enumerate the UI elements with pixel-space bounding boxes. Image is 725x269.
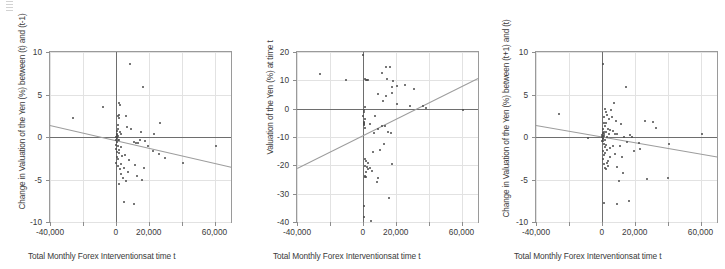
data-point [625,86,627,88]
x-tick-mark [569,222,570,226]
panel-2-plot-area: -40-30-20-1001020-40,000020,00060,000 [297,52,478,222]
x-tick-label: 60,000 [436,228,488,237]
data-point [587,137,589,139]
data-point [623,136,625,138]
y-tick-label: 10 [8,48,42,56]
scatter-panel-1: Change in Valuation of the Yen (%) betwe… [0,0,241,269]
y-tick-label: 5 [8,91,42,99]
y-tick-mark [293,109,297,110]
x-tick-mark [149,222,150,226]
x-tick-mark [429,222,430,226]
data-point [363,216,365,218]
data-point [385,66,387,68]
y-tick-label: -20 [255,161,289,169]
x-tick-mark [50,222,51,226]
gridline-horizontal [50,52,231,53]
data-point [381,125,383,127]
x-tick-mark [83,222,84,226]
y-tick-mark [532,52,536,53]
gridline-horizontal [297,194,478,195]
data-point [372,151,374,153]
x-tick-mark [330,222,331,226]
data-point [391,86,393,88]
data-point [409,105,411,107]
y-tick-label: 0 [8,133,42,141]
y-tick-mark [46,95,50,96]
x-tick-mark [602,222,603,226]
data-point [374,115,376,117]
data-point [125,115,127,117]
data-point [118,152,120,154]
data-point [120,146,122,148]
data-point [604,125,606,127]
x-tick-mark [116,222,117,226]
y-tick-label: -10 [494,218,528,226]
data-point [118,183,120,185]
data-point [117,158,119,160]
y-tick-mark [293,194,297,195]
data-point [122,177,124,179]
y-tick-mark [532,95,536,96]
y-tick-label: -5 [8,176,42,184]
gridline-horizontal [297,222,478,223]
data-point [612,145,614,147]
y-tick-label: 10 [494,48,528,56]
x-tick-label: -40,000 [24,228,76,237]
gridline-horizontal [50,222,231,223]
y-tick-label: 0 [255,105,289,113]
x-tick-mark [635,222,636,226]
data-point [425,107,427,109]
y-tick-label: 10 [255,76,289,84]
y-tick-label: -10 [255,133,289,141]
data-point [602,158,604,160]
data-point [603,163,605,165]
x-tick-label: -40,000 [271,228,323,237]
gridline-horizontal [536,52,717,53]
data-point [611,116,613,118]
data-point [120,163,122,165]
data-point [606,162,608,164]
x-tick-mark [182,222,183,226]
data-point [387,131,389,133]
x-tick-label: 20,000 [609,228,661,237]
panel-1-plot-area: -10-50510-40,000020,00060,000 [50,52,231,222]
y-tick-mark [293,165,297,166]
x-tick-label: 20,000 [370,228,422,237]
data-point [386,78,388,80]
data-point [182,162,184,164]
data-point [116,141,118,143]
data-point [158,153,160,155]
scatter-panel-2: Valuation of the Yen (%) at time t -40-3… [241,0,484,269]
data-point [367,162,369,164]
data-point [379,149,381,151]
data-point [363,205,365,207]
data-point [609,147,611,149]
x-tick-mark [536,222,537,226]
panel-3-y-axis-title: Change in Valuation of the Yen (%) betwe… [498,0,514,253]
data-point [120,173,122,175]
y-tick-mark [293,80,297,81]
y-tick-mark [293,137,297,138]
data-point [615,120,617,122]
data-point [622,172,624,174]
panel-3-plot-area: -10-50510-40,000020,00060,000 [536,52,717,222]
y-tick-label: -5 [494,176,528,184]
x-tick-mark [701,222,702,226]
data-point [396,85,398,87]
x-tick-mark [396,222,397,226]
data-point [652,121,654,123]
data-point [364,127,366,129]
data-point [125,180,127,182]
panel-1-x-axis-title: Total Monthly Forex Interventionsat time… [28,251,176,261]
figure-three-scatter-panels: Change in Valuation of the Yen (%) betwe… [0,0,725,269]
gridline-horizontal [536,180,717,181]
data-point [123,167,125,169]
data-point [701,133,703,135]
data-point [363,111,365,113]
data-point [134,164,136,166]
data-point [371,170,373,172]
gridline-horizontal [536,222,717,223]
panel-3-x-axis-title: Total Monthly Forex Interventionsat time… [514,251,662,261]
data-point [115,148,117,150]
x-tick-label: -40,000 [510,228,562,237]
